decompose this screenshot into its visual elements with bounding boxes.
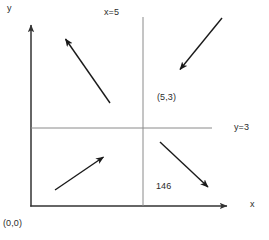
intersection-point-label: (5,3) xyxy=(157,92,176,103)
origin-label: (0,0) xyxy=(3,218,22,229)
diagram-canvas: y x x=5 y=3 (5,3) 146 (0,0) xyxy=(0,0,269,240)
vectors-group xyxy=(55,18,222,190)
vector-arrow-upper-left xyxy=(66,39,111,103)
vertical-line-label: x=5 xyxy=(104,7,119,18)
axes-group xyxy=(30,25,227,207)
vector-arrow-upper-right xyxy=(180,18,222,70)
quadrant-number-label: 146 xyxy=(156,181,171,192)
vector-arrow-lower-left xyxy=(55,157,104,190)
reference-lines-group xyxy=(31,17,212,206)
y-axis-label: y xyxy=(7,3,12,14)
x-axis-label: x xyxy=(250,199,255,210)
coordinate-plane-graphic xyxy=(0,0,269,240)
horizontal-line-label: y=3 xyxy=(234,122,249,133)
